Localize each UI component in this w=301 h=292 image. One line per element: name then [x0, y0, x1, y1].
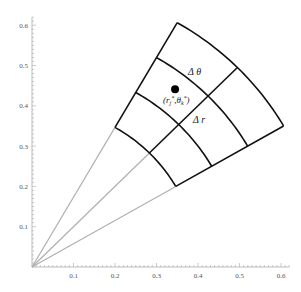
grid-radial-line — [176, 126, 284, 186]
polar-partition-diagram: 0.10.20.30.40.50.60.10.20.30.40.50.6 Δ θ… — [0, 0, 301, 292]
grid-radial-line — [115, 23, 177, 128]
x-tick-label: 0.4 — [194, 272, 203, 280]
gray-ray — [32, 153, 149, 267]
gray-ray — [32, 186, 176, 267]
delta-r-label: Δ r — [192, 114, 205, 125]
y-tick-label: 0.6 — [19, 22, 28, 30]
y-tick-label: 0.3 — [19, 143, 28, 151]
y-tick-label: 0.2 — [19, 183, 28, 191]
y-tick-label: 0.1 — [19, 223, 28, 231]
x-tick-label: 0.5 — [235, 272, 244, 280]
gray-ray — [32, 127, 115, 267]
x-tick-label: 0.2 — [111, 272, 120, 280]
x-tick-label: 0.1 — [69, 272, 78, 280]
sample-point — [171, 85, 179, 93]
delta-theta-label: Δ θ — [187, 66, 201, 77]
x-tick-label: 0.3 — [152, 272, 161, 280]
sample-point-label: (rj*,θk*) — [163, 95, 190, 106]
x-tick-label: 0.6 — [277, 272, 286, 280]
y-tick-label: 0.4 — [19, 102, 28, 110]
y-tick-label: 0.5 — [19, 62, 28, 70]
